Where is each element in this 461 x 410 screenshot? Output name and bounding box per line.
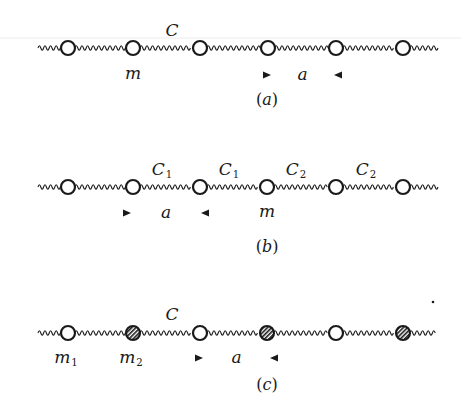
mass-label: m [125,63,141,83]
hatched-mass-icon [126,326,140,340]
spring [274,331,327,335]
spring [275,46,328,50]
open-mass-icon [396,41,410,55]
spring [274,185,327,189]
spring [207,46,260,50]
open-mass-icon [260,180,274,194]
spring-constant-label: C [165,304,178,324]
lattice-diagram: Cma(a)C1C1C2C2ma(b)Cm1m2a(c) [0,0,461,410]
open-mass-icon [61,326,75,340]
spring [343,331,393,335]
arrow-left-icon [334,72,342,79]
spring-constant-label: C1 [152,159,173,180]
spring-constant-label: C2 [286,159,307,180]
panel-c: Cm1m2a(c) [38,304,435,394]
panel-caption: (a) [256,90,278,109]
lattice-spacing-label: a [297,64,307,84]
arrow-left-icon [270,355,278,362]
hatched-mass-icon [260,326,274,340]
open-mass-icon [261,41,275,55]
panel-caption: (c) [256,375,277,394]
arrow-right-icon [263,72,271,79]
open-mass-icon [193,180,207,194]
spring [140,46,190,50]
open-mass-icon [61,180,75,194]
spring [75,331,125,335]
lattice-spacing-label: a [161,202,171,222]
spring [75,46,125,50]
lattice-spacing-label: a [231,347,241,367]
spring [410,185,438,189]
open-mass-icon [61,41,75,55]
panel-caption: (b) [256,237,279,256]
open-mass-icon [329,180,343,194]
open-mass-icon [126,180,140,194]
arrow-left-icon [201,210,209,217]
panel-a: Cma(a) [38,20,438,109]
spring-constant-label: C2 [356,159,377,180]
spring [207,185,257,189]
mass-label: m1 [54,347,78,368]
spring-constant-label: C1 [219,159,240,180]
open-mass-icon [193,326,207,340]
open-mass-icon [396,180,410,194]
spring [75,185,125,189]
arrow-right-icon [195,355,203,362]
mass-label: m [259,201,275,221]
open-mass-icon [193,41,207,55]
arrow-right-icon [123,210,131,217]
open-mass-icon [329,41,343,55]
spring [410,331,435,335]
spring [38,46,60,50]
spring [140,185,190,189]
spring [140,331,190,335]
spring [38,185,60,189]
spring [207,331,257,335]
spring [38,331,60,335]
spring [343,46,393,50]
hatched-mass-icon [396,326,410,340]
stray-dot [432,301,435,304]
spring-constant-label: C [165,20,178,40]
open-mass-icon [329,326,343,340]
mass-label: m2 [119,347,143,368]
spring [343,185,393,189]
open-mass-icon [126,41,140,55]
spring [410,46,438,50]
panel-b: C1C1C2C2ma(b) [38,159,438,256]
